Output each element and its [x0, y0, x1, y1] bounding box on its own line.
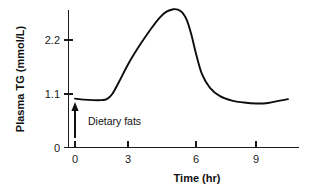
- chart-figure: 0 1.1 2.2 0 3 6 9 Plasma TG (mmol/L) Tim…: [0, 0, 309, 192]
- x-axis-title: Time (hr): [174, 172, 221, 184]
- y-axis-title: Plasma TG (mmol/L): [14, 25, 26, 132]
- data-curve-plasma-tg: [75, 9, 288, 103]
- y-tick-label-0: 0: [54, 142, 60, 154]
- y-tick-label-1: 1.1: [45, 88, 60, 100]
- dietary-fats-label: Dietary fats: [88, 115, 141, 127]
- x-tick-label-3: 9: [253, 153, 259, 165]
- y-tick-label-2: 2.2: [45, 34, 60, 46]
- x-tick-label-2: 6: [193, 153, 199, 165]
- x-tick-label-0: 0: [72, 153, 78, 165]
- up-arrow-icon: [71, 102, 78, 111]
- x-tick-label-1: 3: [125, 153, 131, 165]
- plot-area: 0 1.1 2.2 0 3 6 9 Plasma TG (mmol/L) Tim…: [0, 0, 309, 192]
